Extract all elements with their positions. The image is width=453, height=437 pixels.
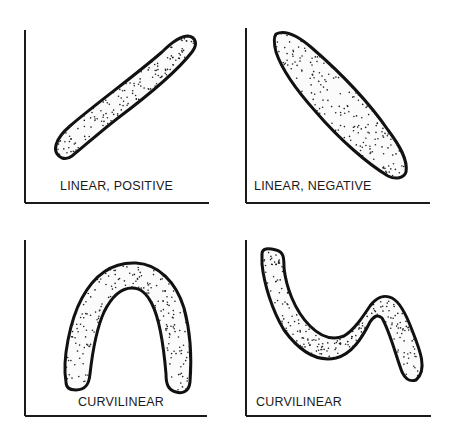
scatter-pattern-diagram: LINEAR, POSITIVE LINEAR, NEGATIVE CURVIL… bbox=[0, 0, 453, 437]
panel-label: CURVILINEAR bbox=[78, 395, 164, 409]
panel-label: CURVILINEAR bbox=[256, 395, 342, 409]
panel-label: LINEAR, POSITIVE bbox=[60, 179, 173, 193]
band-envelope bbox=[65, 263, 191, 393]
panel-linear-positive: LINEAR, POSITIVE bbox=[25, 30, 209, 203]
panel-linear-negative: LINEAR, NEGATIVE bbox=[246, 28, 430, 203]
panel-curvilinear-inverted-u: CURVILINEAR bbox=[25, 240, 207, 416]
ellipse-envelope bbox=[274, 33, 406, 179]
panel-curvilinear-wave: CURVILINEAR bbox=[246, 240, 431, 416]
ellipse-envelope bbox=[56, 36, 196, 159]
panel-label: LINEAR, NEGATIVE bbox=[254, 179, 372, 193]
band-envelope bbox=[262, 249, 422, 381]
